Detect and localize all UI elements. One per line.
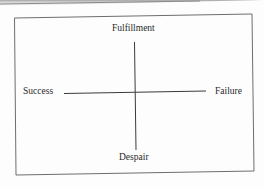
label-fulfillment: Fulfillment bbox=[112, 24, 155, 34]
label-success: Success bbox=[23, 87, 53, 97]
page-edge-line bbox=[0, 1, 200, 4]
vertical-axis-line bbox=[135, 42, 137, 150]
label-failure: Failure bbox=[215, 87, 242, 97]
diagram-page: Fulfillment Success Failure Despair bbox=[0, 0, 264, 187]
label-despair: Despair bbox=[119, 153, 149, 163]
